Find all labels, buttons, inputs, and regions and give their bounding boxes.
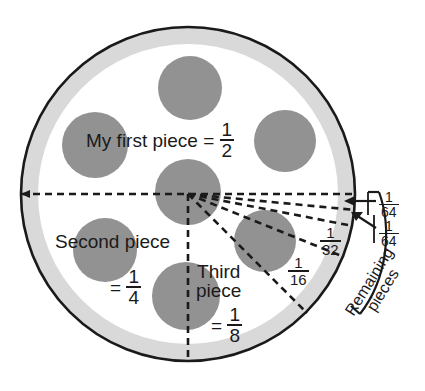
first-piece-equals: = — [203, 131, 214, 150]
second-piece-value: = 1 4 — [110, 267, 141, 308]
fraction-numerator: 1 — [220, 120, 235, 139]
first-piece-text: My first piece — [86, 131, 198, 150]
sixtyfourth-upper-fraction: 1 64 — [379, 190, 399, 220]
third-piece-text-line1: Third — [197, 261, 240, 282]
pepperoni — [254, 110, 316, 172]
label-divider-ticks — [368, 192, 374, 243]
fraction-denominator: 2 — [220, 139, 235, 160]
thirtysecond-fraction: 1 32 — [320, 225, 341, 258]
pepperoni — [234, 210, 296, 272]
second-piece-label: Second piece — [55, 231, 170, 251]
fraction-denominator: 4 — [126, 286, 141, 307]
fraction-numerator: 1 — [227, 305, 242, 324]
fraction-numerator: 1 — [288, 255, 309, 270]
fraction-numerator: 1 — [379, 219, 399, 233]
fraction-denominator: 32 — [320, 240, 341, 257]
fraction-denominator: 16 — [288, 270, 309, 287]
fraction-numerator: 1 — [126, 267, 141, 286]
pepperoni — [155, 159, 221, 225]
third-piece-text-line2: piece — [196, 280, 241, 301]
sixteenth-label: 1 16 — [288, 255, 309, 288]
thirtysecond-label: 1 32 — [320, 225, 341, 258]
fraction-denominator: 8 — [227, 324, 242, 345]
sixteenth-fraction: 1 16 — [288, 255, 309, 288]
first-piece-label: My first piece = 1 2 — [86, 120, 234, 161]
third-piece-value: = 1 8 — [211, 305, 242, 346]
second-piece-fraction: 1 4 — [126, 267, 141, 308]
first-piece-fraction: 1 2 — [220, 120, 235, 161]
sixtyfourth-upper-label: 1 64 — [379, 190, 399, 220]
fraction-numerator: 1 — [379, 190, 399, 204]
third-piece-equals: = — [211, 316, 222, 335]
third-piece-label: Third piece — [196, 262, 241, 300]
fraction-numerator: 1 — [320, 225, 341, 240]
third-piece-fraction: 1 8 — [227, 305, 242, 346]
second-piece-text: Second piece — [55, 232, 170, 251]
second-piece-equals: = — [110, 278, 121, 297]
pepperoni — [158, 56, 222, 120]
pizza-fraction-figure: My first piece = 1 2 Second piece = 1 4 … — [0, 0, 425, 391]
